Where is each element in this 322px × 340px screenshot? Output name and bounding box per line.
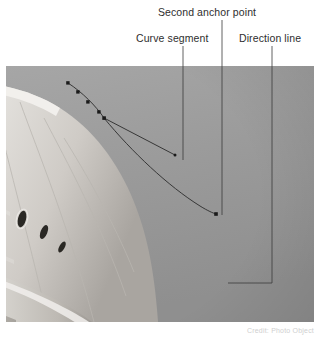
photo-credit-caption: Credit: Photo Object bbox=[247, 326, 314, 335]
figure-container: Second anchor point Curve segment Direct… bbox=[0, 0, 322, 340]
anchor-point[interactable] bbox=[76, 90, 79, 93]
direction-point-handle[interactable] bbox=[174, 154, 177, 157]
anchor-point[interactable] bbox=[66, 81, 69, 84]
callout-label-curve-segment: Curve segment bbox=[136, 32, 209, 44]
anchor-point[interactable] bbox=[86, 100, 89, 103]
anchor-point-first[interactable] bbox=[102, 116, 106, 120]
anchor-point-second[interactable] bbox=[214, 212, 218, 216]
photo-artwork bbox=[6, 66, 314, 322]
callout-label-direction-line: Direction line bbox=[239, 32, 301, 44]
capitol-dome-photo bbox=[6, 66, 314, 322]
callout-label-second-anchor-point: Second anchor point bbox=[158, 6, 256, 18]
anchor-point[interactable] bbox=[97, 110, 100, 113]
